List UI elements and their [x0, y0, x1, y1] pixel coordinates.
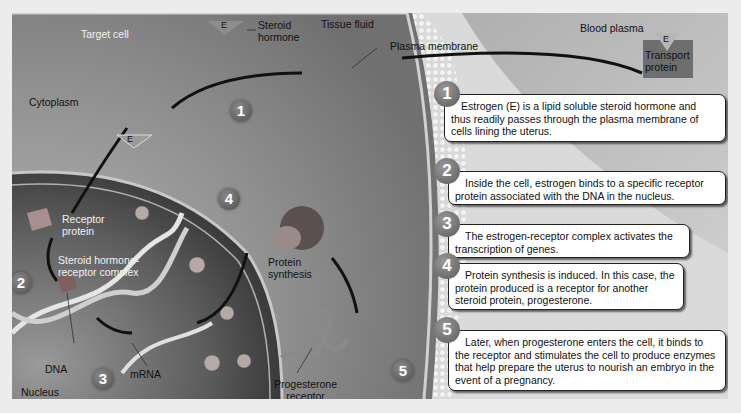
receptor-protein-label: Receptor protein — [62, 213, 105, 237]
step-2-number: 2 — [434, 158, 460, 184]
diagram-step-5-badge: 5 — [392, 360, 414, 382]
complex-label: Steroid hormone- receptor complex — [58, 254, 139, 278]
step-5-box: Later, when progesterone enters the cell… — [448, 330, 726, 391]
nucleus-label: Nucleus — [21, 386, 59, 398]
step-3-box: The estrogen-receptor complex activates … — [448, 224, 690, 258]
step-4-text: Protein synthesis is induced. In this ca… — [455, 269, 675, 306]
step-1-number: 1 — [434, 81, 460, 107]
diagram-canvas: Target cell Tissue fluid Blood plasma Cy… — [12, 13, 728, 399]
plasma-membrane-label: Plasma membrane — [390, 40, 478, 52]
hormone-symbol-blood: E — [663, 33, 669, 45]
step-2-box: Inside the cell, estrogen binds to a spe… — [448, 171, 726, 205]
transport-protein-label: Transport protein — [645, 49, 690, 73]
step-3-number: 3 — [434, 211, 460, 237]
step-5-number: 5 — [434, 317, 460, 343]
target-cell-label: Target cell — [81, 28, 129, 40]
step-2-text: Inside the cell, estrogen binds to a spe… — [455, 177, 704, 202]
step-1-box: Estrogen (E) is a lipid soluble steroid … — [444, 94, 726, 142]
diagram-step-3-badge: 3 — [92, 368, 114, 390]
step-4-number: 4 — [434, 253, 460, 279]
tissue-fluid-label: Tissue fluid — [321, 18, 374, 30]
diagram-step-1-badge: 1 — [230, 100, 252, 122]
blood-plasma-label: Blood plasma — [580, 22, 644, 34]
diagram-step-4-badge: 4 — [218, 188, 240, 210]
mrna-label: mRNA — [130, 368, 161, 380]
progesterone-receptor-label: Progesterone receptor — [274, 378, 337, 399]
steroid-hormone-label: Steroid hormone — [258, 19, 299, 43]
protein-synthesis-label: Protein synthesis — [268, 256, 312, 280]
step-1-text: Estrogen (E) is a lipid soluble steroid … — [451, 100, 698, 137]
step-3-text: The estrogen-receptor complex activates … — [455, 230, 673, 255]
step-4-box: Protein synthesis is induced. In this ca… — [448, 263, 684, 310]
step-5-text: Later, when progesterone enters the cell… — [455, 336, 715, 386]
dna-label: DNA — [45, 363, 67, 375]
cytoplasm-label: Cytoplasm — [29, 96, 79, 108]
hormone-symbol-tissue: E — [221, 19, 227, 31]
hormone-symbol-cytoplasm: E — [127, 133, 133, 145]
